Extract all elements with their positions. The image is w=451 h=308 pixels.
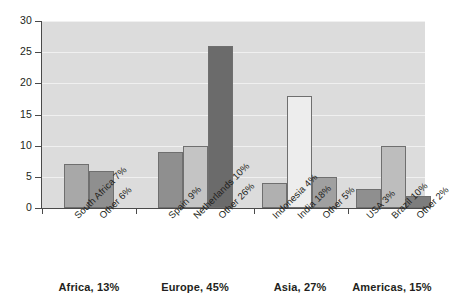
x-sep-tick-asia-americas [348,208,349,214]
group-label-americas: Americas, 15% [352,281,432,293]
y-tick-25 [35,52,41,53]
x-sep-tick-africa-europe [136,208,137,214]
y-tick-15 [35,115,41,116]
y-axis-line [41,21,42,209]
y-tick-5 [35,177,41,178]
y-tick-0 [35,208,41,209]
y-tick-label-5: 5 [26,170,32,182]
y-tick-label-20: 20 [20,76,32,88]
y-tick-label-10: 10 [20,139,32,151]
group-label-europe: Europe, 45% [161,281,229,293]
y-tick-label-25: 25 [20,45,32,57]
group-label-asia: Asia, 27% [274,281,327,293]
x-sep-tick-start [42,208,43,214]
y-tick-label-15: 15 [20,108,32,120]
y-tick-label-0: 0 [26,201,32,213]
y-tick-10 [35,146,41,147]
group-label-africa: Africa, 13% [59,281,120,293]
x-sep-tick-europe-asia [254,208,255,214]
y-tick-20 [35,83,41,84]
y-tick-30 [35,21,41,22]
y-tick-label-30: 30 [20,14,32,26]
